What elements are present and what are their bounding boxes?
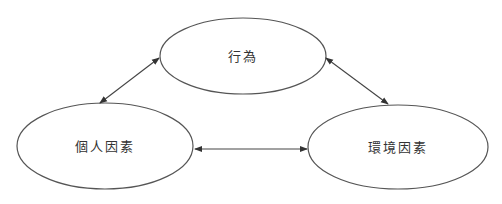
node-environmental-factors: 環境因素 bbox=[308, 105, 488, 189]
triadic-reciprocal-diagram: 行為 個人因素 環境因素 bbox=[0, 0, 502, 204]
label-environmental-factors: 環境因素 bbox=[368, 140, 428, 155]
label-behavior: 行為 bbox=[228, 49, 258, 64]
arrow-personal-behavior bbox=[100, 58, 159, 103]
arrow-behavior-environment bbox=[326, 58, 388, 104]
label-personal-factors: 個人因素 bbox=[75, 139, 135, 154]
node-personal-factors: 個人因素 bbox=[17, 103, 193, 189]
node-behavior: 行為 bbox=[160, 18, 326, 94]
